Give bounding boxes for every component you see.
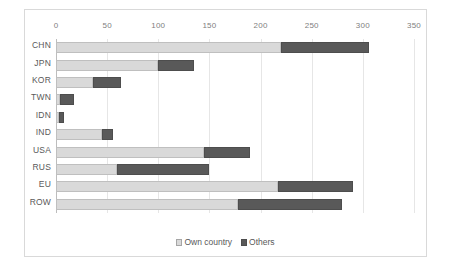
x-tick-label: 100 — [151, 21, 165, 30]
x-tick-label: 350 — [407, 21, 421, 30]
bar-row: EU — [56, 181, 414, 192]
bar-segment-others — [158, 60, 194, 71]
category-label: ROW — [30, 197, 51, 207]
category-label: IDN — [36, 110, 51, 120]
category-label: RUS — [32, 162, 51, 172]
bar-segment-others — [59, 112, 64, 123]
legend-label: Others — [249, 237, 275, 247]
category-label: USA — [33, 145, 51, 155]
category-label: TWN — [31, 92, 51, 102]
bar-segment-others — [60, 94, 74, 105]
legend-swatch-own — [176, 239, 182, 246]
gridline-350 — [414, 39, 415, 213]
x-tick-label: 250 — [305, 21, 319, 30]
bar-segment-own-country — [56, 181, 278, 192]
bar-row: TWN — [56, 94, 414, 105]
x-tick-label: 150 — [202, 21, 216, 30]
chart-legend: Own countryOthers — [25, 237, 426, 247]
bar-segment-own-country — [56, 199, 238, 210]
bar-row: USA — [56, 147, 414, 158]
category-label: JPN — [34, 58, 51, 68]
category-label: IND — [36, 127, 51, 137]
plot-area: 050100150200250300350CHNJPNKORTWNIDNINDU… — [56, 39, 414, 213]
x-tick-label: 300 — [356, 21, 370, 30]
bar-segment-own-country — [56, 129, 102, 140]
bar-segment-own-country — [56, 77, 93, 88]
legend-label: Own country — [184, 237, 232, 247]
bar-segment-own-country — [56, 60, 158, 71]
bar-segment-others — [278, 181, 353, 192]
x-tick-label: 0 — [54, 21, 59, 30]
bar-segment-own-country — [56, 147, 204, 158]
bar-row: KOR — [56, 77, 414, 88]
bar-row: IDN — [56, 112, 414, 123]
x-tick-label: 50 — [102, 21, 111, 30]
bar-row: JPN — [56, 60, 414, 71]
legend-swatch-others — [241, 239, 247, 246]
legend-item[interactable]: Others — [241, 237, 275, 247]
bar-segment-others — [93, 77, 122, 88]
bar-segment-others — [117, 164, 209, 175]
x-tick-label: 200 — [254, 21, 268, 30]
category-label: CHN — [32, 40, 51, 50]
bar-row: CHN — [56, 42, 414, 53]
bar-row: ROW — [56, 199, 414, 210]
chart-container: 050100150200250300350CHNJPNKORTWNIDNINDU… — [24, 9, 427, 257]
bar-row: RUS — [56, 164, 414, 175]
bar-segment-others — [102, 129, 113, 140]
bar-segment-others — [204, 147, 250, 158]
category-label: EU — [39, 179, 51, 189]
bar-segment-own-country — [56, 164, 117, 175]
bar-segment-others — [238, 199, 342, 210]
bar-segment-own-country — [56, 42, 281, 53]
bar-segment-others — [281, 42, 369, 53]
legend-item[interactable]: Own country — [176, 237, 232, 247]
bar-row: IND — [56, 129, 414, 140]
category-label: KOR — [32, 75, 51, 85]
